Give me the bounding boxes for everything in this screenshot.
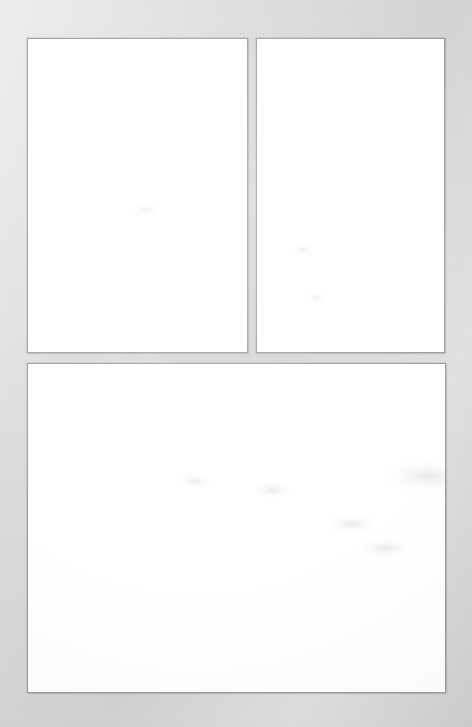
ghost-mark (443, 499, 445, 527)
ghost-mark (328, 514, 376, 534)
panel-surface-bottom (28, 364, 445, 692)
content-panel-top-right[interactable] (256, 38, 445, 353)
ghost-mark (292, 244, 314, 255)
ghost-mark (358, 539, 414, 557)
ghost-mark (133, 204, 159, 216)
scanned-page (0, 0, 472, 727)
panel-surface-top-left (28, 39, 247, 352)
ghost-mark (178, 474, 212, 488)
content-panel-bottom[interactable] (27, 363, 446, 693)
ghost-mark (307, 292, 325, 302)
panel-surface-top-right (257, 39, 444, 352)
ghost-mark (383, 459, 445, 493)
content-panel-top-left[interactable] (27, 38, 248, 353)
ghost-mark (253, 482, 293, 498)
